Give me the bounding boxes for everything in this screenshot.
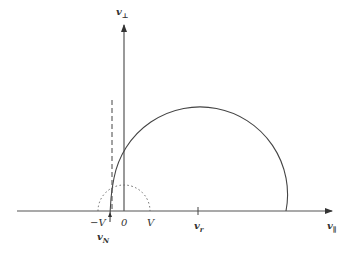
v-r-label: vr bbox=[194, 220, 205, 234]
v-n-label: vN bbox=[97, 231, 110, 245]
zero-label: 0 bbox=[121, 217, 128, 228]
plus-v-label: V bbox=[147, 217, 156, 228]
x-axis-label: v∥ bbox=[327, 220, 337, 234]
curve-arrow-icon bbox=[108, 212, 112, 217]
minus-v-label: −V bbox=[90, 217, 107, 228]
y-axis-label: v⊥ bbox=[116, 6, 129, 20]
velocity-diagram: v⊥ v∥ −V 0 V vr vN bbox=[0, 0, 349, 257]
resonance-curve bbox=[110, 107, 288, 222]
